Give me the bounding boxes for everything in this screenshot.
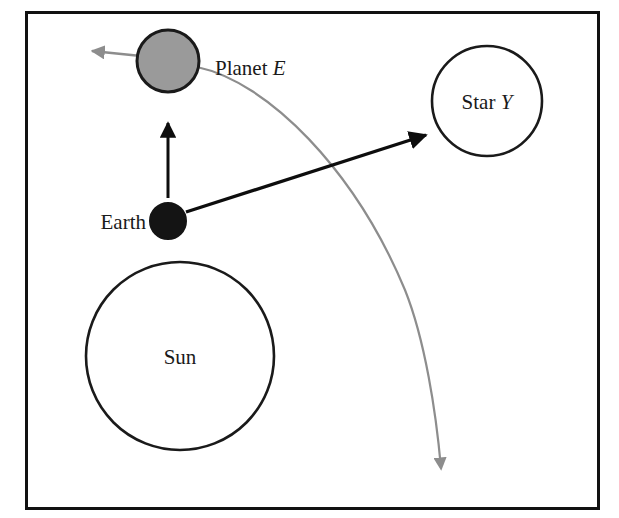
planet-e-label: Planet E: [215, 56, 286, 80]
earth-to-star-arrow: [186, 135, 426, 212]
planet-velocity-arrow: [92, 51, 141, 56]
planet-e-body: [137, 30, 199, 92]
earth-label: Earth: [101, 210, 147, 234]
sun-label: Sun: [164, 345, 197, 369]
astronomy-diagram: Planet E Star Y Earth Sun: [0, 0, 619, 518]
star-y-label: Star Y: [462, 90, 515, 114]
earth-body: [150, 203, 186, 239]
figure-canvas: Planet E Star Y Earth Sun: [0, 0, 619, 518]
